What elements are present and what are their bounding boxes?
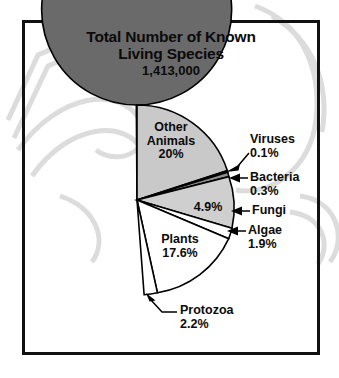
callout-label-bacteria-name: Bacteria — [250, 171, 299, 185]
callout-protozoa — [146, 293, 177, 312]
slice-label-other-animals-line2: Animals — [138, 135, 204, 149]
slice-label-insects: Insects 53% — [48, 173, 128, 200]
chart-subtitle-total: 1,413,000 — [22, 63, 320, 79]
slice-value-plants: 17.6% — [147, 247, 213, 261]
slice-label-plants: Plants 17.6% — [147, 233, 213, 260]
callout-bacteria — [229, 174, 248, 183]
page-title-line-1: Total Number of Known — [22, 28, 320, 45]
slice-value-other-animals: 20% — [138, 148, 204, 162]
callout-label-algae: Algae 1.9% — [248, 224, 282, 251]
page-title-line-2: Living Species — [22, 45, 320, 62]
slice-label-insects-name: Insects — [48, 173, 128, 187]
slice-value-fungi-inline: 4.9% — [186, 201, 230, 215]
callout-value-bacteria: 0.3% — [250, 185, 299, 199]
callout-viruses — [226, 153, 249, 172]
slice-label-other-animals: Other Animals 20% — [138, 121, 204, 162]
callout-label-bacteria: Bacteria 0.3% — [250, 171, 299, 198]
slice-value-insects: 53% — [48, 187, 128, 201]
slice-label-plants-name: Plants — [147, 233, 213, 247]
slice-label-other-animals-line1: Other — [138, 121, 204, 135]
callout-value-protozoa: 2.2% — [180, 318, 233, 332]
callout-label-viruses-name: Viruses — [250, 133, 295, 147]
chart-title-block: Total Number of Known Living Species 1,4… — [22, 28, 320, 79]
callout-label-fungi: Fungi — [252, 204, 286, 218]
callout-label-protozoa: Protozoa 2.2% — [180, 304, 233, 331]
callout-value-viruses: 0.1% — [250, 147, 295, 161]
callout-value-algae: 1.9% — [248, 238, 282, 252]
callout-label-protozoa-name: Protozoa — [180, 304, 233, 318]
callout-label-viruses: Viruses 0.1% — [250, 133, 295, 160]
callout-label-algae-name: Algae — [248, 224, 282, 238]
